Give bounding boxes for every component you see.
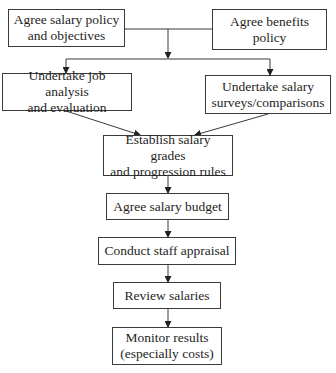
node-label-line: and objectives <box>14 28 120 44</box>
node-label-line: Monitor results <box>120 330 213 346</box>
node-label-line: Review salaries <box>124 288 209 304</box>
node-salary-grades: Establish salary grades and progression … <box>103 135 233 176</box>
node-benefits-policy: Agree benefits policy <box>212 9 327 50</box>
node-staff-appraisal: Conduct staff appraisal <box>98 237 236 265</box>
connector-lines <box>0 0 336 373</box>
node-label-line: Establish salary grades <box>107 132 229 164</box>
node-label-line: surveys/comparisons <box>211 95 324 111</box>
node-label-line: Undertake job analysis <box>6 68 128 100</box>
node-salary-surveys: Undertake salary surveys/comparisons <box>205 75 331 114</box>
node-label-line: (especially costs) <box>120 346 213 362</box>
node-label-line: Undertake salary <box>211 79 324 95</box>
node-job-analysis: Undertake job analysis and evaluation <box>2 73 132 111</box>
node-review-salaries: Review salaries <box>113 282 221 309</box>
node-salary-policy: Agree salary policy and objectives <box>8 9 125 47</box>
node-label-line: policy <box>230 30 309 46</box>
node-salary-budget: Agree salary budget <box>106 193 229 220</box>
node-label-line: Agree salary budget <box>113 199 222 215</box>
node-monitor-results: Monitor results (especially costs) <box>112 327 222 365</box>
node-label-line: Agree benefits <box>230 14 309 30</box>
node-label-line: and progression rules <box>107 164 229 180</box>
node-label-line: Conduct staff appraisal <box>105 243 230 259</box>
node-label-line: Agree salary policy <box>14 12 120 28</box>
node-label-line: and evaluation <box>6 100 128 116</box>
